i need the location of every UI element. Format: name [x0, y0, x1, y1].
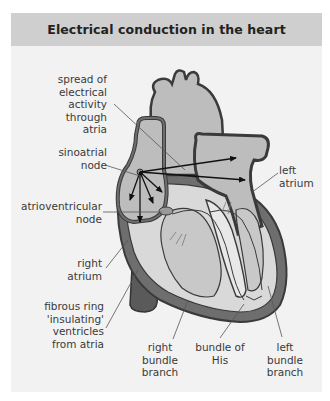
av-node-icon: [159, 207, 173, 215]
label-sinoatrial-node: sinoatrial node: [20, 146, 107, 171]
label-left-atrium: left atrium: [279, 164, 319, 189]
label-spread-of-activity: spread of electrical activity through at…: [20, 73, 107, 136]
label-atrioventricular-node: atrioventricular node: [14, 200, 102, 225]
label-right-atrium: right atrium: [20, 257, 102, 282]
label-left-bundle-branch: left bundle branch: [260, 341, 310, 379]
label-bundle-of-his: bundle of His: [190, 341, 250, 366]
label-fibrous-ring: fibrous ring 'insulating' ventricles fro…: [18, 300, 104, 350]
label-right-bundle-branch: right bundle branch: [136, 341, 184, 379]
